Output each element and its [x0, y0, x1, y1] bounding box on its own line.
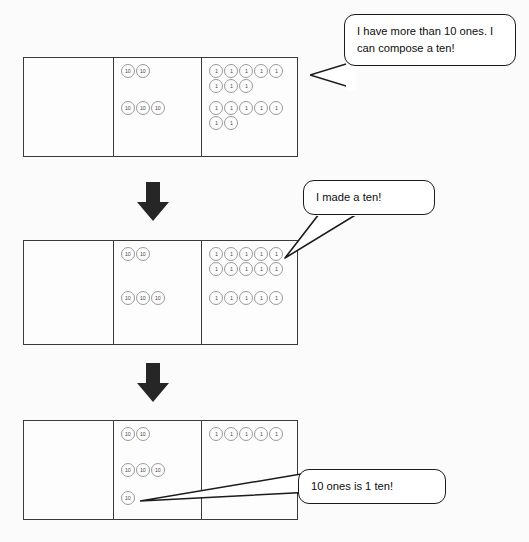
ones-disc: 1: [239, 101, 253, 115]
speech-bubble-compose-a-ten: I have more than 10 ones. I can compose …: [344, 14, 516, 66]
hundreds-column-step-2: [24, 241, 113, 344]
tens-disc-group: 1010: [121, 247, 196, 261]
place-value-chart-step-2: 1010101010 111111111111111: [23, 240, 298, 345]
ones-disc: 1: [254, 64, 268, 78]
tens-column-step-1: 1010101010: [113, 58, 202, 156]
ones-disc: 1: [224, 79, 238, 93]
place-value-chart-step-1: 1010101010 111111111111111: [23, 57, 298, 157]
ones-disc-group: 11111: [209, 427, 284, 441]
ones-disc: 1: [269, 427, 283, 441]
ones-disc: 1: [254, 262, 268, 276]
ones-disc: 1: [269, 262, 283, 276]
tens-disc: 10: [121, 291, 135, 305]
ones-disc: 1: [209, 247, 223, 261]
ones-disc: 1: [239, 64, 253, 78]
ones-disc: 1: [224, 427, 238, 441]
ones-disc: 1: [254, 291, 268, 305]
ones-disc: 1: [239, 262, 253, 276]
ones-disc-group: 11111: [209, 291, 284, 305]
ones-disc: 1: [209, 79, 223, 93]
ones-disc: 1: [224, 262, 238, 276]
tens-disc: 10: [121, 247, 135, 261]
ones-disc: 1: [224, 64, 238, 78]
ones-disc: 1: [224, 116, 238, 130]
ones-disc: 1: [254, 247, 268, 261]
speech-bubble-ten-ones-is-one-ten: 10 ones is 1 ten!: [298, 469, 446, 504]
tens-disc: 10: [121, 64, 135, 78]
down-arrow-icon: [136, 182, 170, 222]
ones-disc-group: 1111111: [209, 101, 284, 130]
ones-disc: 1: [209, 116, 223, 130]
ones-disc: 1: [224, 101, 238, 115]
ones-disc: 1: [254, 101, 268, 115]
ones-disc: 1: [239, 79, 253, 93]
tens-disc: 10: [136, 247, 150, 261]
speech-bubble-tail-2: [283, 214, 383, 260]
ones-disc: 1: [224, 247, 238, 261]
ones-disc: 1: [269, 247, 283, 261]
tens-disc-group: 101010: [121, 291, 196, 305]
tens-disc: 10: [136, 64, 150, 78]
hundreds-column-step-1: [24, 58, 113, 156]
tens-disc: 10: [136, 427, 150, 441]
ones-column-step-1: 111111111111111: [201, 58, 297, 156]
tens-disc: 10: [121, 491, 135, 505]
tens-disc: 10: [121, 427, 135, 441]
ones-disc: 1: [269, 291, 283, 305]
ones-disc: 1: [269, 64, 283, 78]
ones-disc: 1: [209, 427, 223, 441]
tens-disc-group: 1010: [121, 64, 196, 78]
tens-column-step-2: 1010101010: [113, 241, 202, 344]
tens-disc: 10: [151, 101, 165, 115]
ones-disc: 1: [239, 427, 253, 441]
ones-disc: 1: [209, 101, 223, 115]
speech-bubble-made-a-ten: I made a ten!: [303, 180, 435, 215]
ones-disc: 1: [209, 291, 223, 305]
ones-disc: 1: [239, 247, 253, 261]
ones-disc: 1: [209, 262, 223, 276]
tens-disc-group: 1010: [121, 427, 196, 441]
tens-disc-group: 101010: [121, 101, 196, 115]
ones-disc: 1: [269, 101, 283, 115]
ones-disc-group: 1111111111: [209, 247, 284, 276]
ones-disc: 1: [209, 64, 223, 78]
hundreds-column-step-3: [24, 421, 113, 519]
tens-disc: 10: [151, 291, 165, 305]
down-arrow-icon: [136, 363, 170, 403]
tens-disc: 10: [136, 291, 150, 305]
ones-disc: 1: [254, 427, 268, 441]
speech-bubble-tail-3: [140, 470, 315, 508]
ones-disc: 1: [224, 291, 238, 305]
ones-disc-group: 11111111: [209, 64, 284, 93]
tens-disc: 10: [121, 101, 135, 115]
tens-disc: 10: [136, 101, 150, 115]
ones-disc: 1: [239, 291, 253, 305]
tens-disc: 10: [121, 463, 135, 477]
